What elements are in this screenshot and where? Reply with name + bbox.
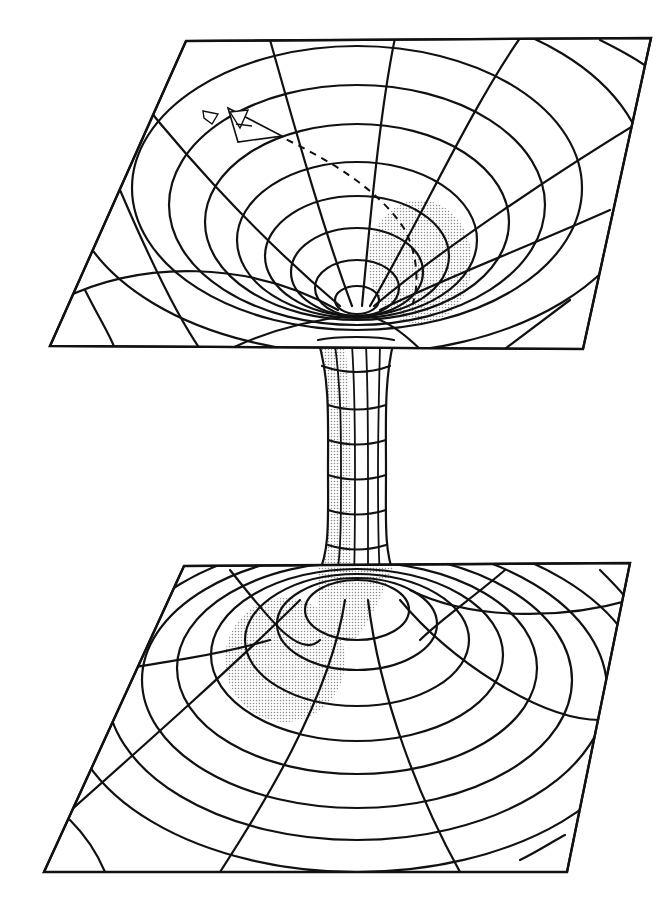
lower-sheet [44,528,647,872]
upper-sheet [50,2,651,354]
wormhole-diagram [0,0,663,916]
throat [318,340,394,575]
